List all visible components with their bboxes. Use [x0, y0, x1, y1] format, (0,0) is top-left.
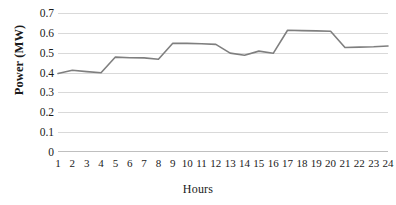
x-axis-title: Hours — [0, 182, 396, 197]
y-tick-label-0.5: 0.5 — [24, 48, 54, 58]
plot-area — [58, 13, 388, 152]
y-axis-tick-labels: 00.10.20.30.40.50.60.7 — [24, 0, 54, 205]
power-vs-hours-line-chart: Power (MW) 00.10.20.30.40.50.60.7 123456… — [0, 0, 396, 205]
y-tick-label-0: 0 — [24, 147, 54, 157]
x-tick-label-24: 24 — [378, 157, 396, 169]
y-tick-label-0.7: 0.7 — [24, 8, 54, 18]
y-tick-label-0.3: 0.3 — [24, 87, 54, 97]
series-line-power — [58, 13, 388, 152]
series-polyline — [58, 30, 388, 73]
y-tick-label-0.4: 0.4 — [24, 68, 54, 78]
y-tick-label-0.2: 0.2 — [24, 107, 54, 117]
y-tick-label-0.6: 0.6 — [24, 28, 54, 38]
x-axis-tick-labels: 123456789101112131415161718192021222324 — [58, 157, 388, 173]
y-tick-label-0.1: 0.1 — [24, 127, 54, 137]
